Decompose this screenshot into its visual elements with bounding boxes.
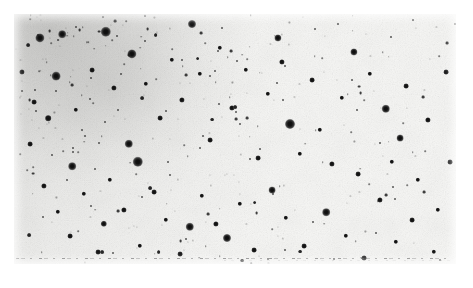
star-point <box>135 173 137 175</box>
star-point <box>113 19 116 22</box>
star-point <box>74 108 78 112</box>
star-point <box>78 151 80 153</box>
star-point <box>225 175 226 176</box>
star-point <box>154 17 155 18</box>
star-point <box>278 235 279 236</box>
star-point <box>240 154 241 155</box>
star-point <box>19 97 20 98</box>
star-point <box>122 24 123 25</box>
star-point <box>294 96 295 97</box>
star-point <box>46 61 48 63</box>
star-point <box>421 95 424 98</box>
star-point <box>246 117 249 120</box>
star-point <box>410 218 415 223</box>
star-point <box>158 116 163 121</box>
star-point <box>289 22 290 23</box>
star-point <box>230 50 233 53</box>
star-point <box>200 194 204 198</box>
star-point <box>167 161 169 163</box>
star-point <box>144 15 146 17</box>
star-point <box>28 98 31 101</box>
star-point <box>217 50 219 52</box>
star-point <box>354 141 355 142</box>
star-point <box>187 155 189 157</box>
star-point <box>112 39 114 41</box>
star-point <box>170 58 174 62</box>
star-point <box>352 30 354 32</box>
star-point <box>170 189 171 190</box>
star-point <box>81 129 83 131</box>
star-point <box>138 196 139 197</box>
star-point <box>68 162 76 170</box>
star-point <box>129 228 130 229</box>
star-point <box>51 222 52 223</box>
star-point <box>284 65 286 67</box>
star-point <box>369 183 371 185</box>
star-point <box>98 142 100 144</box>
star-point <box>69 81 71 83</box>
star-point <box>298 250 302 254</box>
star-point <box>101 221 107 227</box>
star-point <box>242 54 244 56</box>
star-point <box>133 157 143 167</box>
star-point <box>36 17 37 18</box>
star-point <box>253 201 257 205</box>
star-point <box>155 79 157 81</box>
star-point <box>66 179 68 181</box>
star-point <box>141 196 143 198</box>
star-point <box>117 210 120 213</box>
star-point <box>388 56 390 58</box>
star-point <box>246 59 248 61</box>
star-point <box>346 202 347 203</box>
star-point <box>305 143 307 145</box>
star-point <box>55 90 57 92</box>
star-point <box>375 232 377 234</box>
star-point <box>90 77 92 79</box>
star-point <box>110 24 111 25</box>
star-point <box>314 55 316 57</box>
star-point <box>219 255 221 257</box>
star-point <box>32 193 34 195</box>
star-point <box>40 19 41 20</box>
star-point <box>42 216 44 218</box>
star-point <box>66 35 68 37</box>
star-point <box>50 74 52 76</box>
star-point <box>56 197 57 198</box>
star-point <box>125 140 133 148</box>
star-point <box>390 160 394 164</box>
star-point <box>255 212 258 215</box>
star-point <box>303 16 304 17</box>
star-point <box>205 246 207 248</box>
star-point <box>352 15 354 17</box>
star-point <box>43 137 44 138</box>
star-point <box>89 98 91 100</box>
star-point <box>104 121 106 123</box>
star-point <box>288 44 289 45</box>
star-point <box>444 70 449 75</box>
star-point <box>198 72 202 76</box>
star-point <box>249 158 251 160</box>
star-point <box>130 162 132 164</box>
star-point <box>165 110 167 112</box>
star-point <box>262 72 263 73</box>
star-point <box>34 89 36 91</box>
star-point <box>359 92 362 95</box>
star-point <box>85 262 86 263</box>
star-point <box>355 240 357 242</box>
star-point <box>406 107 407 108</box>
star-point <box>30 14 32 16</box>
star-point <box>112 252 114 254</box>
star-point <box>179 82 180 83</box>
star-point <box>374 91 375 92</box>
star-point <box>227 173 228 174</box>
star-point <box>323 71 324 72</box>
star-point <box>86 42 88 44</box>
star-point <box>179 240 182 243</box>
star-point <box>350 48 357 55</box>
star-point <box>75 26 77 28</box>
star-point <box>143 94 144 95</box>
star-point <box>124 118 125 119</box>
star-point <box>51 154 53 156</box>
star-point <box>379 142 381 144</box>
star-point <box>239 123 241 125</box>
